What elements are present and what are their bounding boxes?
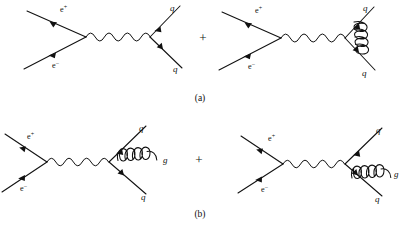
fermion-line-positron-a1	[27, 11, 86, 37]
fermion-line-quark-up-a2	[345, 7, 374, 38]
label-quark-up-b1: q	[139, 123, 144, 133]
plus-sign-row-a: +	[199, 30, 206, 45]
arrow-head-quark-up-b2	[353, 151, 360, 157]
label-quark-up-a2: q	[363, 3, 368, 13]
label-positron-a2: e+	[255, 5, 263, 15]
photon-propagator-a1	[86, 33, 150, 41]
label-quark-up-a1: q	[170, 3, 175, 13]
label-electron-a2: e−	[248, 61, 256, 71]
label-positron-b1: e+	[27, 131, 35, 141]
arrow-head-positron-a1	[50, 22, 58, 28]
plus-sign-row-b: +	[195, 152, 202, 167]
photon-propagator-b2	[283, 160, 345, 168]
fermion-line-quark-down-b1	[109, 162, 146, 194]
label-electron-b1: e−	[20, 183, 28, 193]
fermion-line-quark-up-a1	[150, 6, 180, 37]
arrow-head-positron-b1	[19, 147, 26, 153]
fermion-line-positron-b1	[5, 134, 47, 162]
caption-panel-b: (b)	[194, 209, 205, 220]
label-quark-down-b2: q	[375, 194, 380, 204]
label-gluon-b2: g	[394, 169, 399, 179]
label-quark-up-b2: q	[376, 125, 381, 135]
photon-propagator-b1	[47, 158, 109, 166]
label-electron-a1: e−	[52, 60, 60, 70]
arrow-head-electron-a2	[244, 54, 251, 60]
diagram-a1: e+ e− q q	[24, 3, 182, 74]
label-electron-b2: e−	[261, 184, 269, 194]
arrow-head-electron-a1	[49, 53, 56, 59]
label-quark-down-a2: q	[362, 68, 367, 78]
label-positron-b2: e+	[268, 133, 276, 143]
feynman-diagram-figure: e+ e− q q + e+ e− q q	[0, 0, 400, 230]
diagram-a2: e+ e− q q	[219, 3, 375, 78]
arrow-head-positron-a2	[245, 23, 253, 29]
diagram-b1: e+ e− q q g	[2, 123, 168, 202]
label-quark-down-a1: q	[173, 64, 178, 74]
label-positron-a1: e+	[60, 4, 68, 14]
diagram-canvas: e+ e− q q + e+ e− q q	[0, 0, 400, 230]
fermion-line-positron-a2	[222, 12, 281, 38]
caption-panel-a: (a)	[195, 93, 206, 104]
label-gluon-b1: g	[163, 155, 168, 165]
gluon-emission-b2	[351, 165, 390, 179]
diagram-b2: e+ e− q q g	[238, 125, 399, 204]
gluon-emission-b1	[117, 147, 156, 161]
photon-propagator-a2	[281, 34, 345, 42]
label-quark-down-b1: q	[141, 192, 146, 202]
arrow-head-positron-b2	[256, 149, 263, 155]
